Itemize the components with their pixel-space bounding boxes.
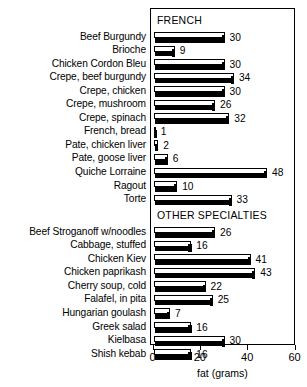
bar-row: 26	[154, 227, 297, 238]
bar-row: 6	[154, 154, 297, 165]
bar-end-cap	[264, 171, 267, 179]
category-label: Ragout	[0, 180, 146, 191]
category-label: Crepe, mushroom	[0, 98, 146, 109]
bar-value-label: 34	[239, 72, 250, 83]
category-label: Cherry soup, cold	[0, 280, 146, 291]
bar-bottom-face	[155, 78, 234, 83]
category-label: Chicken paprikash	[0, 266, 146, 277]
bar-end-cap	[172, 49, 175, 57]
x-tick-mark	[295, 345, 296, 350]
bar	[154, 227, 216, 238]
category-label: Greek salad	[0, 321, 146, 332]
bar-end-cap	[226, 116, 229, 124]
bar-row: 7	[154, 308, 297, 319]
bar-bottom-face	[155, 92, 225, 97]
bar-value-label: 30	[230, 86, 241, 97]
bar-row: 16	[154, 241, 297, 252]
plot-area: FRENCH3093034302632126481033OTHER SPECIA…	[150, 8, 295, 345]
bar-row: 2	[154, 140, 297, 151]
bar-value-label: 10	[182, 181, 193, 192]
group-title-french: FRENCH	[157, 14, 202, 26]
bar-row: 41	[154, 254, 297, 265]
bar-end-cap	[229, 198, 232, 206]
category-label: Brioche	[0, 44, 146, 55]
bar-end-cap	[154, 130, 157, 138]
category-label: Pate, goose liver	[0, 152, 146, 163]
bar-value-label: 48	[272, 167, 283, 178]
category-label: Pate, chicken liver	[0, 139, 146, 150]
x-axis-title: fat (grams)	[150, 367, 295, 379]
bar-end-cap	[155, 144, 158, 152]
bar	[154, 73, 234, 84]
bar-row: 33	[154, 195, 297, 206]
category-label: Crepe, spinach	[0, 112, 146, 123]
bar-value-label: 26	[220, 227, 231, 238]
x-tick-mark	[247, 345, 248, 350]
bar-value-label: 2	[163, 140, 169, 151]
x-tick-mark	[153, 345, 154, 350]
bar-value-label: 43	[260, 267, 271, 278]
bar-value-label: 16	[196, 322, 207, 333]
bar-end-cap	[231, 76, 234, 84]
category-label: Cabbage, stuffed	[0, 239, 146, 250]
bar-value-label: 41	[256, 254, 267, 265]
category-label: Hungarian goulash	[0, 307, 146, 318]
bar-value-label: 32	[234, 113, 245, 124]
bar-value-label: 33	[237, 194, 248, 205]
bar-end-cap	[212, 103, 215, 111]
bar	[154, 32, 225, 43]
bar-value-label: 9	[180, 45, 186, 56]
bar-bottom-face	[155, 64, 225, 69]
bar-row: 10	[154, 181, 297, 192]
bar-value-label: 6	[173, 153, 179, 164]
bar-row: 30	[154, 59, 297, 70]
bar-end-cap	[252, 271, 255, 279]
bar-row: 1	[154, 127, 297, 138]
category-label: Chicken Kiev	[0, 253, 146, 264]
bar-row: 30	[154, 86, 297, 97]
bar-value-label: 25	[218, 294, 229, 305]
bar-end-cap	[222, 89, 225, 97]
bar-end-cap	[203, 285, 206, 293]
x-tick-label: 20	[188, 351, 212, 364]
bar-end-cap	[165, 157, 168, 165]
bar-row: 43	[154, 268, 297, 279]
x-tick-label: 60	[283, 351, 307, 364]
x-tick-label: 40	[235, 351, 259, 364]
bar-value-label: 16	[196, 240, 207, 251]
bar	[154, 100, 216, 111]
bar-value-label: 22	[211, 281, 222, 292]
fat-grams-bar-chart: Beef BurgundyBriocheChicken Cordon BleuC…	[0, 0, 307, 387]
category-label: Torte	[0, 193, 146, 204]
bar-row: 22	[154, 281, 297, 292]
category-label: Quiche Lorraine	[0, 166, 146, 177]
category-label: Falafel, in pita	[0, 293, 146, 304]
bar-value-label: 26	[220, 99, 231, 110]
bar-end-cap	[212, 230, 215, 238]
x-tick-mark	[200, 345, 201, 350]
bar	[154, 140, 159, 151]
bar-value-label: 30	[230, 59, 241, 70]
category-axis-labels: Beef BurgundyBriocheChicken Cordon BleuC…	[0, 0, 148, 387]
bar-bottom-face	[155, 287, 206, 292]
bar-end-cap	[248, 257, 251, 265]
x-axis-line	[150, 344, 295, 345]
bar-bottom-face	[155, 37, 225, 42]
bar-row: 16	[154, 322, 297, 333]
bar-value-label: 30	[230, 32, 241, 43]
bar-bottom-face	[155, 327, 192, 332]
bar-bottom-face	[155, 233, 215, 238]
bar-value-label: 7	[175, 308, 181, 319]
bar-end-cap	[167, 312, 170, 320]
bar	[154, 113, 230, 124]
group-title-other-specialties: OTHER SPECIALTIES	[157, 209, 267, 221]
category-label: Kielbasa	[0, 334, 146, 345]
bar-bottom-face	[155, 119, 230, 124]
bar-row: 26	[154, 100, 297, 111]
category-label: Crepe, beef burgundy	[0, 71, 146, 82]
category-label: Chicken Cordon Bleu	[0, 58, 146, 69]
bar-row: 16	[154, 349, 297, 360]
bar-end-cap	[188, 325, 191, 333]
bar	[154, 308, 171, 319]
bar-bottom-face	[155, 105, 215, 110]
